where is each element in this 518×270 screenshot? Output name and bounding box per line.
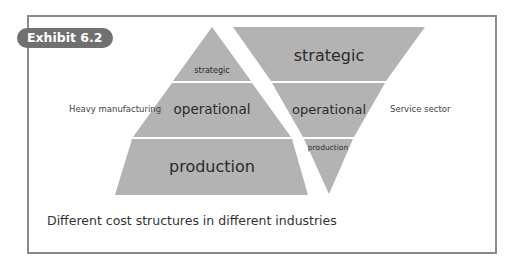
exhibit-caption: Different cost structures in different i… (47, 213, 337, 228)
pyramid-label-strategic: strategic (194, 66, 229, 75)
service-sector-label: Service sector (390, 104, 450, 114)
pyramid-label-production: production (169, 157, 255, 176)
exhibit-badge: Exhibit 6.2 (17, 28, 113, 48)
inverted-label-strategic: strategic (294, 46, 365, 65)
heavy-manufacturing-label: Heavy manufacturing (69, 104, 161, 114)
inverted-label-production: production (308, 143, 349, 152)
inverted-label-operational: operational (292, 102, 366, 117)
pyramid-label-operational: operational (174, 101, 251, 117)
